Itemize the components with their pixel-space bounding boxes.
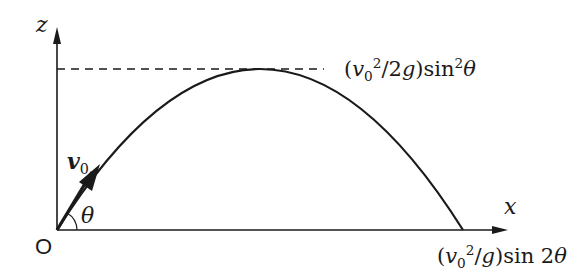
v-symbol: v xyxy=(445,244,457,268)
x-axis-label: x xyxy=(504,196,516,218)
origin-label: O xyxy=(35,236,52,258)
paren-open: ( xyxy=(437,244,445,268)
range-label: (v02/g)sin 2θ xyxy=(437,244,567,271)
trajectory-curve xyxy=(57,69,463,230)
divisor: / xyxy=(474,244,481,268)
sin-superscript: 2 xyxy=(455,55,464,71)
sin-text: )sin 2 xyxy=(495,244,554,268)
divisor: /2 xyxy=(381,57,401,81)
paren-open: ( xyxy=(344,57,352,81)
velocity-symbol: v xyxy=(67,148,80,174)
theta-symbol: θ xyxy=(554,244,567,268)
velocity-label: v0 xyxy=(67,150,89,177)
z-axis-arrowhead-icon xyxy=(53,27,61,44)
g-symbol: g xyxy=(402,57,415,81)
x-axis-arrowhead-icon xyxy=(492,226,508,234)
z-axis-label: z xyxy=(36,14,48,36)
angle-label: θ xyxy=(81,205,94,227)
v-subscript: 0 xyxy=(364,68,373,84)
g-symbol: g xyxy=(482,244,495,268)
angle-arc xyxy=(67,213,77,230)
v-symbol: v xyxy=(352,57,364,81)
velocity-subscript: 0 xyxy=(80,161,89,177)
trajectory-diagram xyxy=(0,0,588,280)
max-height-label: (v02/2g)sin2θ xyxy=(344,57,476,84)
theta-symbol: θ xyxy=(463,57,476,81)
sin-text: )sin xyxy=(415,57,454,81)
v-subscript: 0 xyxy=(457,255,466,271)
